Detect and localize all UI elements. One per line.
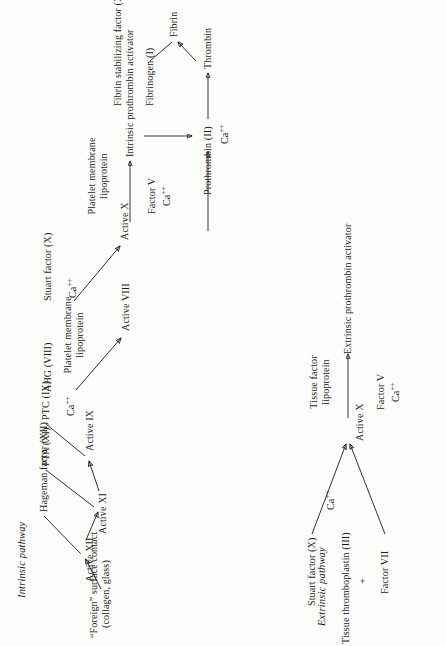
calcium-x-text: Ca: [67, 287, 78, 298]
tissue-factor-line2: lipoprotein: [320, 359, 331, 404]
factor-vii-label: Factor VII: [379, 551, 391, 594]
factor-v-intrinsic-label: Factor V: [146, 178, 158, 214]
tissue-thromboplastin-label: Tissue thromboplastin (III): [340, 532, 352, 644]
fibrinogen-i-label: Fibrinogen (I): [144, 48, 156, 106]
platelet-lipo-1-line1: Platelet membrane: [62, 296, 73, 373]
platelet-lipo-2-line1: Platelet membrane: [86, 137, 97, 214]
extrinsic-prothrombin-activator-label: Extrinsic prothrombin activator: [342, 224, 354, 354]
active-x-intrinsic-label: Active X: [119, 202, 131, 240]
prothrombin-ii-label: Prothrombin (II): [202, 126, 214, 195]
factor-v-ca-text: Ca: [161, 195, 172, 206]
intrinsic-prothrombin-activator-label: Intrinsic prothrombin activator: [124, 29, 136, 157]
arrow-ptc-to-activeix: [46, 424, 85, 456]
arrow-hageman-to-activexii: [44, 516, 81, 554]
platelet-lipo-2-line2: lipoprotein: [98, 153, 109, 198]
fibrin-stabilizing-factor-label: Fibrin stabilizing factor (XIII): [112, 0, 124, 106]
calcium-ix-superscript: ++: [63, 396, 72, 404]
extrinsic-calcium-label: Ca++: [322, 490, 337, 510]
factor-v-ca-ext-superscript: ++: [388, 382, 397, 390]
fibrin-label: Fibrin: [168, 12, 180, 37]
pta-xi-label: PTA (XI): [40, 428, 52, 466]
stuart-factor-x-extrinsic-label: Stuart factor (X): [306, 538, 318, 606]
arrow-factorvii-to-activex: [350, 444, 385, 534]
plus-sign: +: [357, 578, 369, 584]
calcium-x-label: Ca++: [64, 278, 79, 298]
arrow-activexi-to-activeix: [89, 461, 99, 491]
factor-v-ca-superscript: ++: [159, 186, 168, 194]
cascade-canvas: Intrinsic pathway “Foreign” surface cont…: [0, 0, 446, 646]
calcium-x-superscript: ++: [65, 278, 74, 286]
common-calcium-superscript: ++: [217, 124, 226, 132]
foreign-surface-contact-line2: (collagen, glass): [100, 560, 112, 628]
factor-v-ca-ext-text: Ca: [390, 391, 401, 402]
intrinsic-pathway-header: Intrinsic pathway: [16, 522, 28, 598]
factor-v-calcium-intrinsic: Ca++: [158, 186, 173, 206]
common-calcium-label: Ca++: [216, 124, 231, 144]
platelet-lipo-1-line2: lipoprotein: [74, 312, 85, 357]
thrombin-label: Thrombin: [202, 28, 214, 69]
arrow-pta-to-activexi: [46, 470, 94, 507]
active-xii-label: Active XII: [84, 538, 96, 582]
extrinsic-calcium-text: Ca: [325, 499, 336, 510]
calcium-ix-text: Ca: [65, 405, 76, 416]
tissue-factor-line1: Tissue factor: [308, 355, 319, 408]
tissue-factor-lipoprotein-label: Tissue factor lipoprotein: [308, 334, 331, 430]
active-viii-label: Active VIII: [120, 283, 132, 331]
figure-page: Intrinsic pathway “Foreign” surface cont…: [0, 0, 446, 646]
extrinsic-pathway-header: Extrinsic pathway: [316, 547, 328, 626]
extrinsic-calcium-superscript: ++: [323, 490, 332, 498]
active-x-extrinsic-label: Active X: [354, 403, 366, 441]
common-calcium-text: Ca: [219, 133, 230, 144]
active-ix-label: Active IX: [84, 410, 96, 451]
stuart-factor-x-intrinsic-label: Stuart factor (X): [42, 233, 54, 301]
arrow-thrombin-to-fibrin: [178, 42, 196, 61]
platelet-membrane-lipoprotein-2: Platelet membrane lipoprotein: [86, 124, 109, 228]
factor-v-extrinsic-label: Factor V: [375, 374, 387, 410]
calcium-ix-label: Ca++: [62, 396, 77, 416]
arrow-stuartfactor-to-activex: [312, 444, 346, 534]
platelet-membrane-lipoprotein-1: Platelet membrane lipoprotein: [62, 283, 85, 387]
active-xi-label: Active XI: [97, 493, 109, 534]
factor-v-calcium-extrinsic: Ca++: [387, 382, 402, 402]
ahg-viii-label: AHG (VIII): [42, 343, 54, 393]
